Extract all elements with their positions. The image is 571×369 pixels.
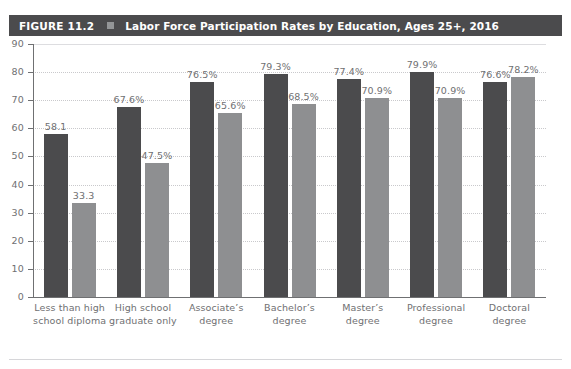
bar-value-label: 76.5% — [187, 69, 218, 80]
plot-area — [33, 44, 546, 297]
bar-value-label: 76.6% — [480, 69, 511, 80]
y-axis-tick — [28, 297, 33, 298]
y-axis-tick — [28, 72, 33, 73]
figure-header-bar: FIGURE 11.2 Labor Force Participation Ra… — [9, 15, 562, 36]
bar-women-1 — [145, 163, 169, 297]
bottom-divider — [9, 359, 562, 360]
bar-value-label: 65.6% — [215, 100, 246, 111]
bar-men-2 — [190, 82, 214, 297]
bar-women-6 — [511, 77, 535, 297]
y-axis-tick — [28, 241, 33, 242]
category-label-line: Master’s — [326, 302, 399, 315]
bar-value-label: 78.2% — [508, 64, 539, 75]
y-axis-label: 60 — [0, 122, 24, 133]
bar-women-3 — [292, 104, 316, 297]
category-label-2: Associate’sdegree — [180, 302, 253, 327]
y-axis-tick — [28, 213, 33, 214]
category-label-0: Less than highschool diploma — [33, 302, 106, 327]
bar-value-label: 58.1 — [45, 121, 67, 132]
bar-value-label: 70.9% — [361, 85, 392, 96]
gridline — [33, 44, 546, 45]
category-label-line: degree — [473, 315, 546, 328]
category-label-line: Doctoral — [473, 302, 546, 315]
page-bleed-text — [0, 0, 571, 11]
gridline — [33, 213, 546, 214]
category-label-5: Professionaldegree — [399, 302, 472, 327]
category-label-line: degree — [180, 315, 253, 328]
gridline — [33, 156, 546, 157]
category-label-line: degree — [253, 315, 326, 328]
y-axis-label: 40 — [0, 179, 24, 190]
category-label-line: Less than high — [33, 302, 106, 315]
y-axis-tick — [28, 100, 33, 101]
gridline — [33, 128, 546, 129]
y-axis-label: 30 — [0, 207, 24, 218]
bar-women-5 — [438, 98, 462, 297]
bar-women-2 — [218, 113, 242, 297]
y-axis-label: 90 — [0, 38, 24, 49]
bar-value-label: 33.3 — [73, 190, 95, 201]
y-axis-tick — [28, 156, 33, 157]
bar-men-5 — [410, 72, 434, 297]
category-label-line: graduate only — [106, 315, 179, 328]
gridline — [33, 269, 546, 270]
bar-women-0 — [72, 203, 96, 297]
category-label-line: degree — [399, 315, 472, 328]
figure-number: FIGURE 11.2 — [19, 20, 94, 32]
bar-value-label: 77.4% — [333, 66, 364, 77]
gridline — [33, 72, 546, 73]
bar-men-3 — [264, 74, 288, 297]
gridline — [33, 241, 546, 242]
category-label-line: school diploma — [33, 315, 106, 328]
bar-value-label: 67.6% — [114, 94, 145, 105]
y-axis-line — [33, 44, 34, 298]
y-axis-tick — [28, 269, 33, 270]
y-axis-label: 50 — [0, 150, 24, 161]
bar-men-4 — [337, 79, 361, 297]
bar-value-label: 70.9% — [435, 85, 466, 96]
bar-value-label: 68.5% — [288, 91, 319, 102]
category-label-line: Bachelor’s — [253, 302, 326, 315]
y-axis-label: 0 — [0, 291, 24, 302]
category-label-3: Bachelor’sdegree — [253, 302, 326, 327]
gridline — [33, 185, 546, 186]
category-label-line: Associate’s — [180, 302, 253, 315]
square-bullet-icon — [107, 22, 114, 29]
y-axis-label: 70 — [0, 94, 24, 105]
bar-men-6 — [483, 82, 507, 297]
y-axis-label: 20 — [0, 235, 24, 246]
bar-value-label: 79.9% — [407, 59, 438, 70]
y-axis-label: 80 — [0, 66, 24, 77]
bar-value-label: 47.5% — [142, 150, 173, 161]
bar-men-0 — [44, 134, 68, 297]
bar-value-label: 79.3% — [260, 61, 291, 72]
y-axis-tick — [28, 128, 33, 129]
category-label-line: degree — [326, 315, 399, 328]
figure-title: Labor Force Participation Rates by Educa… — [125, 20, 499, 32]
bar-women-4 — [365, 98, 389, 297]
x-axis-line — [33, 297, 546, 298]
category-label-line: High school — [106, 302, 179, 315]
category-label-4: Master’sdegree — [326, 302, 399, 327]
y-axis-tick — [28, 44, 33, 45]
category-label-1: High schoolgraduate only — [106, 302, 179, 327]
y-axis-tick — [28, 185, 33, 186]
chart-canvas: 0102030405060708090 58.133.367.6%47.5%76… — [0, 36, 571, 336]
y-axis-label: 10 — [0, 263, 24, 274]
category-label-6: Doctoraldegree — [473, 302, 546, 327]
category-label-line: Professional — [399, 302, 472, 315]
bar-men-1 — [117, 107, 141, 297]
